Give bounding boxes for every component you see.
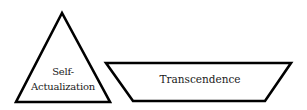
transcendence-label: Transcendence (130, 72, 270, 86)
label-line-1: Self- (20, 64, 106, 79)
self-actualization-label: Self- Actualization (20, 64, 106, 94)
label-line-2: Actualization (20, 79, 106, 94)
